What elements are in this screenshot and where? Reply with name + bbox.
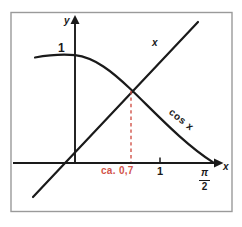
y-axis [71, 15, 80, 163]
cosine-curve [35, 55, 214, 163]
figure-canvas: y 1 x cos x ca. 0,7 1 π 2 x [0, 0, 242, 227]
y-tick-label-one: 1 [58, 42, 65, 54]
pi-half-numerator: π [201, 168, 208, 179]
y-axis-arrowhead [71, 15, 80, 24]
x-axis-label: x [223, 162, 229, 172]
intersection-annotation-label: ca. 0,7 [101, 166, 134, 176]
pi-half-denominator: 2 [202, 182, 208, 193]
identity-line-label: x [152, 38, 158, 48]
y-axis-label: y [64, 16, 70, 26]
x-axis-pi-half-label: π 2 [199, 168, 210, 192]
graph-svg [0, 0, 242, 227]
x-tick-label-one: 1 [157, 166, 163, 177]
